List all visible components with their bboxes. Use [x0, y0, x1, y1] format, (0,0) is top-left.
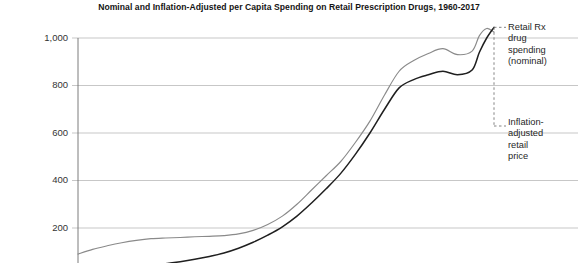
series-line-inflation-adjusted	[78, 28, 494, 254]
annotation-nominal-line-1: Retail Rx	[508, 22, 547, 33]
annotation-real-line-2: adjusted	[508, 128, 544, 139]
annotation-inflation-adjusted: Inflation- adjusted retail price	[508, 117, 544, 163]
chart-container: Nominal and Inflation-Adjusted per Capit…	[0, 0, 578, 263]
annotation-nominal-line-3: spending	[508, 45, 547, 56]
y-tick-label-600: 600	[24, 127, 68, 138]
y-tick-label-200: 200	[24, 222, 68, 233]
y-tick-label-1000: 1,000	[24, 32, 68, 43]
gridlines	[72, 38, 578, 228]
chart-plot-area	[0, 0, 578, 263]
annotation-leader-lines	[494, 27, 506, 126]
annotation-real-line-4: price	[508, 151, 544, 162]
annotation-real-line-1: Inflation-	[508, 117, 544, 128]
y-tick-label-800: 800	[24, 79, 68, 90]
annotation-nominal-line-4: (nominal)	[508, 56, 547, 67]
annotation-nominal: Retail Rx drug spending (nominal)	[508, 22, 547, 68]
annotation-nominal-line-2: drug	[508, 33, 547, 44]
annotation-real-line-3: retail	[508, 140, 544, 151]
y-tick-label-400: 400	[24, 174, 68, 185]
